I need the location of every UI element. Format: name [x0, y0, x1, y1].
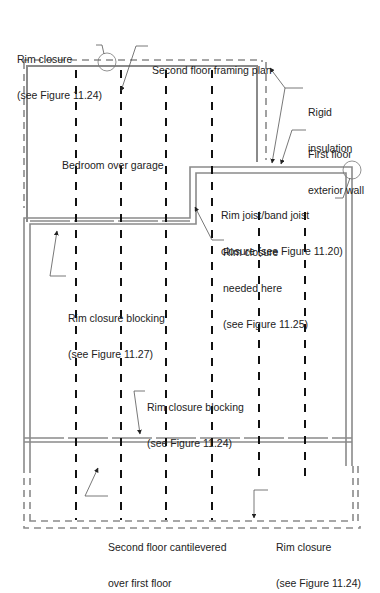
- framing-plan-title: Second floor framing plan: [152, 40, 272, 88]
- room-label: Bedroom over garage: [62, 135, 164, 183]
- rim-closure-needed-label: Rim closure needed here (see Figure 11.2…: [223, 222, 308, 342]
- rim-closure-top-label: Rim closure (see Figure 11.24): [17, 29, 102, 113]
- rim-blocking-bottom-label: Rim closure blocking (see Figure 11.24): [147, 377, 244, 461]
- rim-closure-bottom-label: Rim closure (see Figure 11.24): [276, 517, 361, 593]
- rim-blocking-left-label: Rim closure blocking (see Figure 11.27): [68, 288, 165, 372]
- cantilever-label: Second floor cantilevered over first flo…: [108, 517, 227, 593]
